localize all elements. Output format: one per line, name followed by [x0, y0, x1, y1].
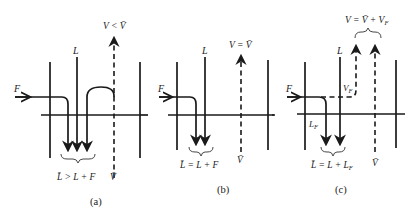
liquid-bottom-label: L̄ = L + LF	[310, 160, 354, 171]
vapor-bottom-label: V̄	[372, 158, 379, 168]
condensed-vapor-arrow	[87, 87, 114, 150]
panel-a: F L V < V̄ V̄ L̄ > L + F (a)	[13, 21, 140, 208]
feed-label: F	[285, 83, 293, 94]
liquid-label: L	[72, 45, 79, 56]
feed-stage-diagram: F L V < V̄ V̄ L̄ > L + F (a) F L V = V̄ …	[0, 0, 412, 212]
vapor-bottom-label: V̄	[237, 155, 244, 165]
liquid-label: L	[336, 45, 343, 56]
vapor-feed-label: VF	[343, 83, 354, 94]
vapor-top-label: V < V̄	[103, 21, 127, 31]
liquid-bottom-label: L̄ > L + F	[56, 172, 96, 182]
panel-caption: (b)	[217, 184, 230, 196]
brace	[61, 154, 95, 163]
liquid-bottom-label: L̄ = L + F	[179, 160, 219, 170]
brace	[321, 147, 345, 156]
panel-caption: (c)	[335, 184, 347, 196]
brace	[189, 147, 213, 156]
feed-label: F	[157, 83, 165, 94]
vapor-top-label: V = V̄ + VF	[345, 15, 389, 26]
liquid-label: L	[201, 45, 208, 56]
liquid-feed-label: LF	[308, 119, 319, 130]
vapor-top-label: V = V̄	[229, 40, 253, 50]
vapor-brace	[355, 28, 381, 38]
panel-caption: (a)	[90, 196, 102, 208]
vapor-bottom-label: V̄	[110, 172, 117, 182]
liquid-feed-arrow	[287, 97, 326, 144]
feed-stream-arrow	[15, 97, 68, 150]
panel-c: F L VF LF V = V̄ + VF V̄ L̄ = L + LF (c)	[272, 15, 405, 196]
feed-label: F	[13, 83, 21, 94]
panel-b: F L V = V̄ V̄ L̄ = L + F (b)	[140, 40, 275, 196]
